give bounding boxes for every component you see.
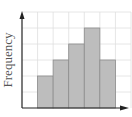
bars bbox=[38, 28, 116, 108]
x-axis-arrow-icon bbox=[120, 106, 129, 111]
histogram-bar bbox=[84, 28, 100, 108]
histogram-bar bbox=[53, 60, 69, 108]
histogram-bar bbox=[38, 76, 54, 108]
histogram-bar bbox=[69, 44, 85, 108]
y-axis-label: Frequency bbox=[0, 30, 16, 90]
histogram-bar bbox=[100, 60, 116, 108]
chart-canvas bbox=[0, 0, 132, 117]
